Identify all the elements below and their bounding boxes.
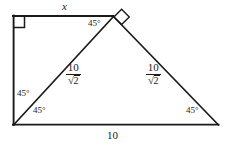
label-right-hypotenuse-fraction: 10 √2 <box>146 62 161 86</box>
segment-right-hypotenuse <box>114 17 219 126</box>
label-angle-apex: 45° <box>88 19 101 28</box>
radical-group-left: √2 <box>67 75 80 86</box>
segment-left-hypotenuse <box>14 17 114 126</box>
geometry-figure: x 45° 45° 45° 45° 10 √2 10 √2 10 <box>0 0 231 147</box>
left-fraction-numerator: 10 <box>66 62 81 73</box>
diamond-right-angle-marker <box>114 9 129 24</box>
right-fraction-denominator: √2 <box>146 75 161 86</box>
radical-group-right: √2 <box>147 75 160 86</box>
label-bottom-side: 10 <box>107 130 118 141</box>
label-left-hypotenuse-fraction: 10 √2 <box>66 62 81 86</box>
geometry-line-art <box>0 0 231 147</box>
left-fraction-denominator: √2 <box>66 75 81 86</box>
right-fraction-numerator: 10 <box>146 62 161 73</box>
label-angle-bottom-right: 45° <box>186 106 199 115</box>
label-top-side-x: x <box>62 1 67 12</box>
left-radicand: 2 <box>74 75 80 86</box>
right-radicand: 2 <box>154 75 160 86</box>
label-angle-left-lower: 45° <box>33 106 46 115</box>
label-angle-left-upper: 45° <box>17 89 30 98</box>
square-right-angle-marker <box>14 16 25 27</box>
